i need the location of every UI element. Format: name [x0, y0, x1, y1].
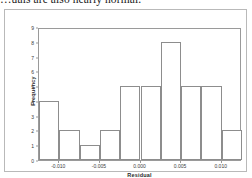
x-axis-tick-label: 0.010	[214, 164, 227, 169]
y-axis-tick-label: 8	[31, 40, 34, 45]
histogram-bars	[39, 29, 240, 160]
histogram-bar	[222, 130, 242, 160]
clipped-caption-text: …uals are also nearly normal.	[0, 0, 252, 7]
x-axis-tick-label: 0.000	[133, 164, 146, 169]
y-axis-tick-label: 1	[31, 144, 34, 149]
histogram-bar	[181, 86, 201, 160]
histogram-bar	[80, 145, 100, 160]
histogram-bar	[100, 130, 120, 160]
y-axis-tick-label: 5	[31, 85, 34, 90]
y-axis-tick-label: 7	[31, 55, 34, 60]
histogram-bar	[120, 86, 140, 160]
histogram-bar	[39, 101, 59, 160]
y-axis-tick-label: 6	[31, 70, 34, 75]
y-axis-tick-label: 0	[31, 159, 34, 164]
y-axis-tick-label: 3	[31, 114, 34, 119]
histogram-bar	[161, 42, 181, 160]
y-axis-tick-label: 9	[31, 26, 34, 31]
histogram-bar	[59, 130, 79, 160]
histogram-bar	[201, 86, 221, 160]
y-axis-ticks: 0123456789	[5, 10, 38, 143]
figure-container: Frequency 0123456789 -0.010-0.0050.0000.…	[4, 9, 247, 172]
x-axis-title: Residual	[38, 172, 241, 178]
x-axis-tick-label: -0.010	[51, 164, 65, 169]
histogram-bar	[141, 86, 161, 160]
x-axis-tick-label: 0.005	[174, 164, 187, 169]
x-axis-tick-label: -0.005	[92, 164, 106, 169]
y-axis-tick-label: 4	[31, 99, 34, 104]
plot-area	[38, 28, 241, 161]
y-axis-tick-label: 2	[31, 129, 34, 134]
